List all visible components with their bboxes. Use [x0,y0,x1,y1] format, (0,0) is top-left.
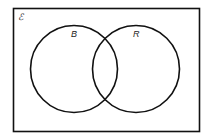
universal-set-rectangle [14,9,200,132]
set-r-label: R [133,29,140,39]
universal-set-label: ℰ [18,12,25,22]
venn-diagram: ℰ B R [0,0,210,138]
set-b-label: B [71,29,77,39]
